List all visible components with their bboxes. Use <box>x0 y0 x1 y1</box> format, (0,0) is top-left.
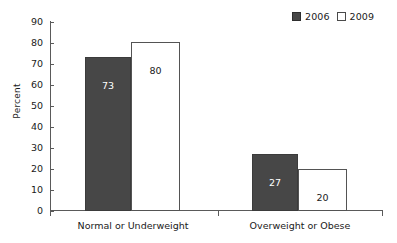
bar-value-label: 20 <box>299 192 346 203</box>
bar-2009-normal-or-underweight: 80 <box>131 42 180 211</box>
bar-value-label: 73 <box>86 80 130 91</box>
y-axis-line <box>50 21 51 211</box>
bar-chart: 2006 2009 Percent 90 80 70 60 50 <box>0 0 397 243</box>
chart-legend: 2006 2009 <box>292 11 374 22</box>
legend-label-2009: 2009 <box>350 11 375 22</box>
x-tick-end <box>382 211 383 216</box>
bar-value-label: 27 <box>253 177 297 188</box>
bar-2009-overweight-or-obese: 20 <box>298 169 347 211</box>
x-axis-category-label-normal-or-underweight: Normal or Underweight <box>58 220 208 231</box>
y-tick-label: 90 <box>31 16 43 27</box>
y-axis-ticks: 90 80 70 60 50 40 30 20 <box>0 0 50 243</box>
y-tick-label: 20 <box>31 163 43 174</box>
bar-2006-normal-or-underweight: 73 <box>85 57 131 211</box>
x-tick-start <box>50 211 51 216</box>
y-tick-label: 10 <box>31 184 43 195</box>
legend-swatch-icon-2009 <box>337 12 346 21</box>
y-tick-label: 70 <box>31 58 43 69</box>
x-axis-category-label-overweight-or-obese: Overweight or Obese <box>225 220 375 231</box>
bar-value-label: 80 <box>132 65 179 76</box>
legend-entry-2006: 2006 <box>292 11 330 22</box>
x-tick-group-divider <box>218 211 219 216</box>
y-tick-label: 80 <box>31 37 43 48</box>
y-tick-label: 30 <box>31 142 43 153</box>
legend-label-2006: 2006 <box>305 11 330 22</box>
bar-2006-overweight-or-obese: 27 <box>252 154 298 211</box>
y-tick-label: 40 <box>31 121 43 132</box>
legend-entry-2009: 2009 <box>337 11 375 22</box>
y-tick-label: 50 <box>31 100 43 111</box>
y-tick-label: 60 <box>31 79 43 90</box>
y-tick-label: 0 <box>37 205 43 216</box>
legend-swatch-icon-2006 <box>292 12 301 21</box>
